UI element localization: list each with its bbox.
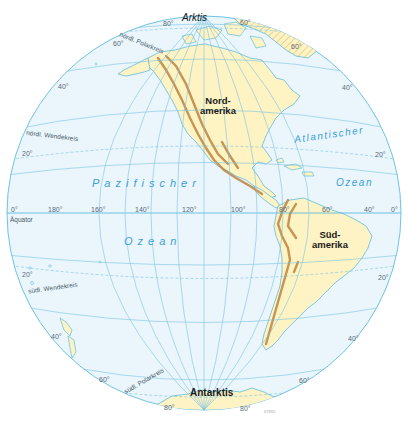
lon-label: 60° xyxy=(322,206,333,213)
lon-label: 40° xyxy=(364,206,375,213)
label-atlantic-2: Ozean xyxy=(336,178,373,188)
lat-label: 40° xyxy=(342,84,353,91)
lat-label: 20° xyxy=(22,150,33,157)
lat-label: 20° xyxy=(378,274,389,281)
label-arctic: Arktis xyxy=(182,13,207,23)
label-equator: Äquator xyxy=(10,217,33,224)
map-code: 07855 xyxy=(264,410,275,414)
lat-label: 80° xyxy=(163,20,174,27)
label-south-america: Süd- amerika xyxy=(312,230,348,250)
lon-label: 140° xyxy=(135,206,149,213)
lat-label: 40° xyxy=(58,83,69,90)
lon-label: 180° xyxy=(48,206,62,213)
label-north-america: Nord- amerika xyxy=(200,96,236,116)
lat-label: 60° xyxy=(113,40,124,47)
lat-label: 80° xyxy=(240,405,251,412)
lat-label: 60° xyxy=(299,377,310,384)
lat-label: 20° xyxy=(375,151,386,158)
label-pacific-2: Ozean xyxy=(124,236,181,247)
lat-label: 40° xyxy=(51,333,62,340)
lat-label: 60° xyxy=(240,19,251,26)
lon-label: 80° xyxy=(279,206,290,213)
lon-label: 160° xyxy=(91,206,105,213)
lon-label: 0° xyxy=(11,206,18,213)
label-antarctic: Antarktis xyxy=(190,388,233,399)
lon-label: 100° xyxy=(231,206,245,213)
lat-label: 20° xyxy=(22,271,33,278)
lat-label: 40° xyxy=(348,335,359,342)
lon-label: 120° xyxy=(182,206,196,213)
lon-label: 0° xyxy=(391,206,398,213)
lat-label: 60° xyxy=(99,376,110,383)
label-pacific-1: Pazifischer xyxy=(92,178,201,189)
lat-label: 80° xyxy=(164,404,175,411)
lat-label: 60° xyxy=(291,43,302,50)
